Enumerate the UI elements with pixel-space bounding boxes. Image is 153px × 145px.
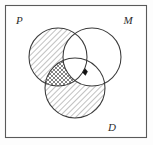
label-d: D [107, 121, 116, 133]
label-p: P [15, 14, 23, 26]
venn-diagram-canvas: P M D [0, 0, 153, 145]
venn-diagram-figure: P M D [0, 0, 153, 145]
label-m: M [122, 14, 133, 26]
